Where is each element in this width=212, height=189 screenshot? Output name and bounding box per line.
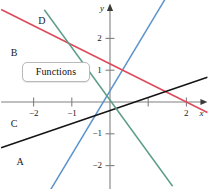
- x-tick-label: −2: [29, 109, 39, 118]
- function-graph-figure: x y −2−1221−1−2ABCD Functions: [0, 0, 212, 189]
- curve-label-C: C: [11, 119, 18, 129]
- curve-label-D: D: [38, 16, 45, 26]
- curves-group: [1, 0, 207, 189]
- y-tick-label: 1: [97, 66, 102, 75]
- functions-callout-label: Functions: [36, 67, 76, 77]
- x-axis-arrowhead: [200, 99, 207, 105]
- y-axis-label: y: [100, 4, 104, 13]
- functions-callout-box[interactable]: Functions: [22, 62, 90, 82]
- x-axis-label: x: [199, 109, 203, 118]
- x-tick-label: 2: [184, 109, 189, 118]
- curve-B: [1, 9, 207, 112]
- y-axis-arrowhead: [107, 3, 113, 11]
- y-tick-label: −2: [92, 161, 102, 170]
- curve-D: [44, 10, 172, 186]
- curve-A: [51, 0, 200, 189]
- curve-label-B: B: [11, 48, 18, 58]
- x-tick-label: −1: [67, 109, 77, 118]
- y-tick-label: −1: [92, 129, 102, 138]
- y-tick-label: 2: [97, 34, 102, 43]
- curve-label-A: A: [16, 157, 23, 167]
- plot-canvas: [0, 0, 212, 189]
